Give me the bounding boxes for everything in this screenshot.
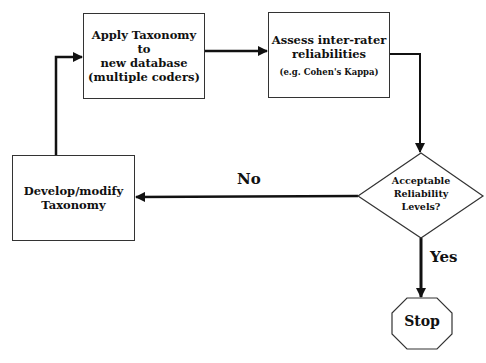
node-assess-reliability: Assess inter-rater reliabilities (e.g. C…	[268, 12, 390, 98]
node-develop-taxonomy: Develop/modify Taxonomy	[12, 155, 135, 241]
node-stop-text: Stop	[392, 313, 452, 329]
decision-line1: Acceptable	[368, 174, 474, 187]
node-decision-text: Acceptable Reliability Levels?	[368, 174, 474, 213]
edge-label-no: No	[237, 170, 261, 188]
decision-line3: Levels?	[368, 200, 474, 213]
node-develop-line2: Taxonomy	[41, 198, 105, 212]
arrow-assess-to-decision	[390, 54, 420, 152]
edge-label-yes: Yes	[430, 248, 457, 266]
arrow-develop-to-apply	[56, 57, 82, 155]
node-apply-line1: Apply Taxonomy to	[84, 28, 204, 56]
node-assess-line2: reliabilities	[292, 47, 366, 61]
node-apply-line3: (multiple coders)	[88, 70, 200, 84]
node-assess-line1: Assess inter-rater	[272, 33, 387, 47]
node-assess-subtext: (e.g. Cohen's Kappa)	[279, 67, 378, 77]
node-develop-line1: Develop/modify	[24, 184, 123, 198]
decision-line2: Reliability	[368, 187, 474, 200]
node-apply-line2: new database	[100, 56, 187, 70]
node-apply-taxonomy: Apply Taxonomy to new database (multiple…	[83, 13, 205, 99]
arrow-decision-to-develop	[136, 196, 358, 197]
